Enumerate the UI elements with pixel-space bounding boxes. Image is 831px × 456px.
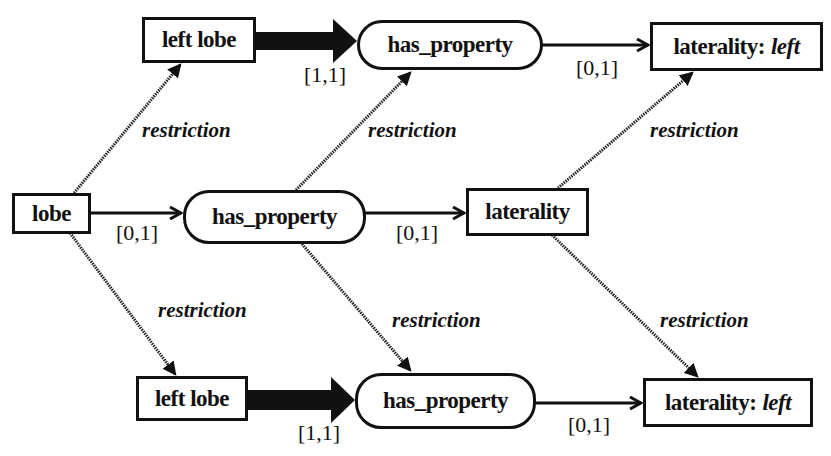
cardinality-label-mid-left: [0,1]	[116, 220, 158, 246]
node-has-property-bottom-label: has_property	[383, 388, 508, 414]
restriction-line-has-property-mid-to-has-property-bottom	[302, 244, 410, 370]
node-laterality-left-bottom-value: left	[762, 390, 791, 416]
cardinality-label-mid-right: [0,1]	[396, 220, 438, 246]
thick-arrow-left-lobe-top-to-has-property-top	[255, 19, 357, 63]
cardinality-label-bottom-thick: [1,1]	[298, 420, 340, 446]
cardinality-label-top-thick: [1,1]	[304, 62, 346, 88]
cardinality-label-top-right: [0,1]	[576, 55, 618, 81]
node-has-property-top[interactable]: has_property	[357, 20, 543, 70]
thick-arrow-left-lobe-bottom-to-has-property-bottom	[247, 377, 355, 423]
cardinality-label-bottom-right: [0,1]	[568, 412, 610, 438]
node-laterality-left-top-label: laterality:	[673, 34, 765, 60]
node-has-property-mid-label: has_property	[212, 204, 337, 230]
node-laterality-mid[interactable]: laterality	[466, 188, 589, 236]
node-laterality-left-bottom[interactable]: laterality: left	[643, 378, 813, 427]
restriction-label-top-mid: restriction	[368, 118, 457, 143]
node-left-lobe-bottom-label: left lobe	[155, 386, 229, 412]
node-has-property-bottom[interactable]: has_property	[355, 373, 536, 429]
node-left-lobe-bottom[interactable]: left lobe	[136, 376, 248, 421]
restriction-label-top-right: restriction	[650, 118, 739, 143]
node-lobe-label: lobe	[32, 201, 71, 227]
node-left-lobe-top[interactable]: left lobe	[142, 17, 256, 63]
restriction-label-top-left: restriction	[142, 118, 231, 143]
node-left-lobe-top-label: left lobe	[162, 27, 236, 53]
node-laterality-left-top-value: left	[771, 34, 800, 60]
node-has-property-mid[interactable]: has_property	[183, 190, 366, 244]
restriction-label-bottom-mid: restriction	[392, 308, 481, 333]
restriction-label-bottom-left: restriction	[158, 298, 247, 323]
node-has-property-top-label: has_property	[387, 32, 512, 58]
diagram-canvas: lobe left lobe has_property laterality: …	[0, 0, 831, 456]
node-laterality-left-bottom-label: laterality:	[665, 390, 757, 416]
restriction-label-bottom-right: restriction	[660, 308, 749, 333]
node-laterality-mid-label: laterality	[485, 199, 569, 225]
node-laterality-left-top[interactable]: laterality: left	[650, 22, 823, 71]
restriction-line-laterality-to-laterality-left-bottom	[552, 235, 697, 376]
node-lobe[interactable]: lobe	[12, 193, 91, 234]
